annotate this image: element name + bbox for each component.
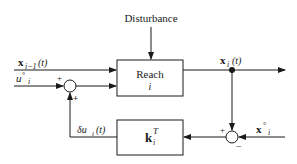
sum1-plus-left: + [57,73,62,83]
input-state-label: x [18,56,24,68]
sum2-minus: − [236,141,242,152]
control-ref-sup: ° [22,71,25,80]
disturbance-label: Disturbance [124,12,177,24]
summing-junction-1 [64,80,76,92]
branch-point [229,67,235,73]
input-state-sub: i−1 [25,62,37,71]
output-state-sub: i [227,60,229,69]
state-ref-sup: ° [263,121,266,130]
state-ref-label: x [256,123,262,135]
output-state-arg: (t) [232,55,242,67]
block-diagram: Disturbance Reach i k T i x i−1 (t) u ° … [0,0,297,164]
gain-block-sup: T [153,126,159,136]
output-state-label: x [220,54,226,66]
feedback-label: δu [77,124,87,135]
feedback-sub: i [92,130,94,138]
gain-block-sub: i [153,138,155,147]
state-ref-sub: i [268,128,270,137]
gain-block-label: k [145,130,153,145]
reach-block-label: Reach [136,68,164,80]
control-ref-sub: i [28,77,30,86]
feedback-arg: (t) [96,124,106,136]
sum1-plus-bottom: + [73,93,78,103]
input-state-arg: (t) [38,57,48,69]
sum2-plus: + [220,125,225,135]
reach-block-index: i [149,81,152,92]
